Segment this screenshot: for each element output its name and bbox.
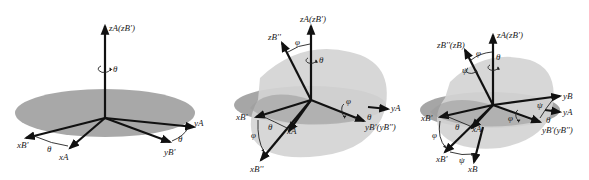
rotation-psi-label: ψ <box>462 65 468 75</box>
angle-phi-z-arc <box>471 52 492 60</box>
angle-phi-z-label: φ <box>476 48 481 58</box>
y-b1-label: yB'(yB'') <box>541 125 573 135</box>
angle-theta-x-label: θ <box>47 144 52 154</box>
y-a-label: yA <box>390 103 401 113</box>
rotation-phi-label: φ <box>346 96 351 106</box>
x-b2-label: xB' <box>435 154 448 164</box>
angle-phi-x-label: φ <box>432 130 437 140</box>
y-b-label: yB <box>562 91 573 101</box>
angle-theta-y-label: θ <box>178 134 183 144</box>
z-axis-label: zA(zB') <box>108 23 135 33</box>
rotation-theta-label: θ <box>319 55 324 65</box>
y-b1-label: yB' <box>163 147 176 157</box>
angle-theta-y-label: θ <box>546 115 551 125</box>
panel-2: zA(zB') zB'' φ θ φ yA θ yB'(yB'') xB' θ … <box>234 14 401 174</box>
angle-psi-y-label: ψ <box>537 100 543 110</box>
panel-3: zA(zB') zB''(zB) φ θ ψ yB yA ψ θ yB'(yB'… <box>420 30 573 174</box>
panel-1: zA(zB') θ xB' θ xA yA θ yB' <box>15 23 204 162</box>
x-b1-label: xB' <box>420 113 433 123</box>
rotation-theta-label: θ <box>496 52 501 62</box>
x-a-label: xA <box>286 126 297 136</box>
z-axis-label: zA(zB') <box>496 30 523 40</box>
x-a-label: xA <box>471 124 482 134</box>
x-b1-label: xB' <box>16 140 29 150</box>
angle-psi-x-label: ψ <box>459 155 465 165</box>
rotation-theta-label: θ <box>113 64 118 74</box>
angle-theta-y-label: θ <box>367 112 372 122</box>
x-b1-label: xB' <box>235 112 248 122</box>
x-a-label: xA <box>58 152 69 162</box>
x-b-label: xB <box>467 164 478 174</box>
x-b2-label: xB'' <box>249 164 264 174</box>
rotation-phi-label: φ <box>508 113 513 123</box>
z-axis-label: zA(zB') <box>299 14 326 24</box>
angle-phi-z-label: φ <box>295 37 300 47</box>
z-b2-label: zB'' <box>267 32 282 42</box>
angle-theta-x-label: θ <box>268 122 273 132</box>
y-b1-label: yB'(yB'') <box>364 122 396 132</box>
angle-theta-x-label: θ <box>455 122 460 132</box>
euler-angle-figure: zA(zB') θ xB' θ xA yA θ yB' zA(zB') zB''… <box>0 0 589 180</box>
y-a-label: yA <box>562 107 573 117</box>
y-a-label: yA <box>193 118 204 128</box>
angle-phi-x-label: φ <box>251 130 256 140</box>
z-b2-label: zB''(zB) <box>436 40 465 50</box>
